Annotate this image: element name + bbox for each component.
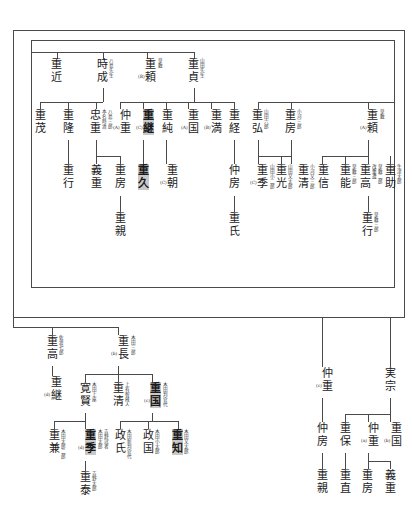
node-prefix: (c) [316,384,322,388]
node-shigetsune[interactable]: 重経 [228,109,240,135]
node-shigesuke-namazu[interactable]: 重助 生津太郎 [384,164,401,190]
node-prefix: (b) [384,439,390,443]
drop-shigekuni-c [152,413,153,421]
node-shigekiyo-ogawa[interactable]: 重清 小河又三郎 [297,164,314,190]
node-name: 重信 [318,164,329,190]
node-nakashige-a2[interactable]: (a) 仲重 [361,422,379,448]
node-shigetsugu-c[interactable]: (C) 重継 [136,109,154,135]
node-nakafusa[interactable]: 仲房 [228,164,240,190]
node-yoshishige[interactable]: 義重 [90,164,102,190]
node-name: 仲房 [317,422,328,448]
node-shigetomo-c[interactable]: (C) 重朝 [160,164,178,190]
stem-shigekane [54,421,55,429]
node-shigetomo-kida[interactable]: 重知 木田又太郎 [171,429,188,455]
node-shigesada[interactable]: 重貞 山田先生 [187,58,204,84]
drop-shigetaka-sado [52,366,53,376]
node-shigesue-c[interactable]: (C) 重季 山田小二郎 [250,164,274,190]
node-prefix: (c) [144,399,150,403]
node-name: 重高 [47,335,58,361]
node-masauji[interactable]: 政氏 木田新判官代 [114,429,131,459]
node-name: 実宗 [385,367,396,393]
outer-right-rule [404,30,405,318]
node-nakafusa-2[interactable]: 仲房 [316,422,328,448]
node-name: 重近 [51,58,62,84]
node-shigenao[interactable]: 重直 [339,469,351,495]
node-shigechika-3[interactable]: 重親 [316,469,328,495]
node-shigeyuki-kusashiki[interactable]: 重行 草敷三郎 [361,212,378,238]
node-name: 時成 [97,58,108,84]
node-shigekuni-c[interactable]: (c) 重国 木田判官代 [144,382,167,408]
node-shigeyori-b[interactable]: (B) 重頼 草敷 [138,58,162,84]
node-shigechika[interactable]: 重近 [50,58,62,84]
node-shigetaka-sado[interactable]: 重高 佐渡七郎 [46,335,63,361]
node-annotations: 木田三郎 [129,335,135,355]
node-name: 重弘 [252,109,263,135]
gen3-bar-tadashige-children [96,156,120,157]
node-shigefusa-3[interactable]: 重房 [361,469,373,495]
node-shigeyuki[interactable]: 重行 [62,164,74,190]
lower-right-descend-sanemune [390,317,391,367]
node-name: 仲重 [120,109,131,135]
node-shigeyasu-2[interactable]: 重保 [339,422,351,448]
node-tokinari[interactable]: 時成 八島先生 [96,58,113,84]
gen2-bar-mid [120,102,234,103]
node-yoshishige-2[interactable]: 義重 [384,469,396,495]
node-shigesumi[interactable]: 重純 [161,109,173,135]
node-shigetaka-kusashiki[interactable]: 重高 草敷二郎 改重遭 [359,164,382,190]
node-shigekuni-b[interactable]: (b) 重国 [384,422,402,448]
node-masakuni[interactable]: 政国 木田小太郎 [142,429,159,455]
node-shigekuni-a[interactable]: (A) 重国 [181,109,199,135]
node-shigehiro[interactable]: 重弘 山田六郎 [251,109,268,135]
node-annotations: 木田上座 [91,382,97,402]
node-annotations: 山田小二郎 [268,164,274,189]
node-tadashige[interactable]: 忠重 八島三郎 本名時清 [89,109,112,135]
node-name: 重光 [276,164,287,190]
node-shigehisa[interactable]: 重久 [137,164,149,190]
node-annotations: 小河又三郎 [309,164,315,189]
node-shigenaga-b[interactable]: (b) 重長 木田三郎 [111,335,135,361]
node-shigefusa-2[interactable]: 重房 [114,164,126,190]
node-shigenobu[interactable]: 重信 [317,164,329,190]
node-name: 重茂 [35,109,46,135]
drop-shigeyasu-2 [345,453,346,469]
node-shigesue-d[interactable]: (d) 重季 吉野冠者 木田太郎 [78,429,108,455]
node-shigetaka[interactable]: 重隆 [62,109,74,135]
node-shigetsugu-d[interactable]: (d) 重継 [44,376,62,402]
node-prefix: (C) [250,181,257,185]
gen2-bar-left [40,102,103,103]
inner-left-rule [31,40,32,288]
stem-nakashige-a2 [368,414,369,422]
node-shigemitsu-yamada[interactable]: 重光 山田又太郎 [275,164,292,190]
node-shigeyasu-yoshino[interactable]: 重泰 吉野太郎 [79,471,96,497]
node-sanemune[interactable]: 実宗 [384,367,396,393]
node-name: 重季 [85,429,96,455]
gen2-stem-shigemochi [40,102,41,109]
drop-nakashige-a2 [368,453,369,461]
drop-shigehiro [258,140,259,156]
node-shigeyori-a[interactable]: (A) 重頼 草敷 [360,109,384,135]
node-name: 重親 [115,212,126,238]
node-shigeuji[interactable]: 重氏 [228,212,240,238]
stem-shigetomo-kida [178,421,179,429]
gen3-stem-shigefusa2 [120,156,121,164]
node-shigefusa-ogawa[interactable]: 重房 小河三郎 [284,109,301,135]
node-name: 重房 [285,109,296,135]
node-shigekiyo-kamiuchi[interactable]: 重清 上有智蔵人 [112,382,129,408]
node-prefix: (C) [136,126,143,130]
lower-left-bar [13,327,118,328]
node-shigechika-2[interactable]: 重親 [114,212,126,238]
drop-shigetsugu [143,140,144,164]
node-shigemitsu-b[interactable]: (B) 重満 [204,109,222,135]
outer-left-rule [13,30,14,318]
node-annotations: 山田又太郎 [287,164,293,189]
node-name: 仲重 [322,367,333,393]
node-kanken[interactable]: 寛賢 木田上座 [79,382,96,408]
node-shigemochi[interactable]: 重茂 [34,109,46,135]
node-name: 忠重 [90,109,101,135]
node-shigeyoshi-kusashiki[interactable]: 重能 草敷三郎 [339,164,356,190]
inner-top-rule [31,40,395,41]
node-name: 重継 [143,109,154,135]
node-nakashige-c[interactable]: (c) 仲重 [316,367,333,393]
node-shigekane[interactable]: 重兼 木田太郎二郎 [48,429,65,459]
node-nakashige-a[interactable]: (A) 仲重 [113,109,131,135]
